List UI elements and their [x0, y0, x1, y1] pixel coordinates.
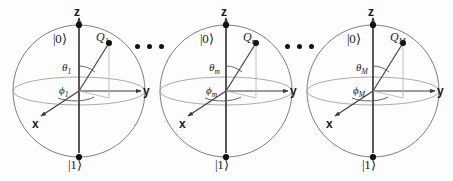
ellipsis-dot	[135, 44, 140, 49]
state-symbol-1: Q	[96, 30, 105, 44]
phi-subscript-m: m	[212, 90, 217, 99]
bloch-sphere-m-graphics	[160, 18, 292, 160]
ket-one-label-1: |1⟩	[68, 158, 81, 171]
x-axis-label-m: x	[179, 118, 186, 130]
bloch-sphere-1-graphics	[13, 18, 145, 160]
y-axis-label-1: y	[143, 85, 150, 97]
ket-one-label-m: |1⟩	[215, 158, 228, 171]
state-subscript-1: 1	[105, 37, 109, 46]
ellipsis-dot	[309, 44, 314, 49]
state-symbol-m: Q	[243, 30, 252, 44]
state-vector-1	[79, 43, 109, 91]
theta-label-1: θ1	[62, 62, 71, 76]
z-axis-label-1: z	[74, 6, 80, 18]
bloch-sphere-M-graphics	[307, 18, 439, 160]
state-label-M: QM	[390, 31, 405, 46]
state-label-m: Qm	[243, 31, 257, 46]
ellipsis-dot	[297, 44, 302, 49]
phi-subscript-M: M	[359, 90, 365, 99]
phi-label-m: ϕm	[206, 85, 217, 99]
ellipsis-between-1-and-m	[135, 44, 164, 49]
x-axis-label-1: x	[32, 118, 39, 130]
bloch-sphere-figure: z |0⟩ |1⟩ y x Q1 θ1 ϕ1 z |0⟩ |1⟩ y x Qm …	[0, 0, 453, 181]
north-pole-dot-M	[370, 22, 376, 28]
theta-subscript-m: m	[214, 67, 219, 76]
state-label-1: Q1	[96, 31, 109, 46]
state-subscript-m: m	[252, 37, 258, 46]
z-axis-label-M: z	[368, 6, 374, 18]
state-vector-m	[226, 43, 256, 91]
projection-plane-line-1	[79, 91, 109, 98]
projection-plane-line-M	[373, 91, 403, 98]
theta-label-m: θm	[209, 62, 220, 76]
x-axis-label-M: x	[326, 118, 333, 130]
ket-zero-label-M: |0⟩	[347, 32, 360, 45]
ellipsis-dot	[159, 44, 164, 49]
state-subscript-M: M	[399, 37, 406, 46]
phi-subscript-1: 1	[65, 90, 69, 99]
phi-label-1: ϕ1	[59, 85, 68, 99]
ellipsis-between-m-and-M	[285, 44, 314, 49]
theta-label-M: θM	[356, 62, 368, 76]
north-pole-dot-1	[76, 22, 82, 28]
z-axis-label-m: z	[221, 6, 227, 18]
y-axis-label-M: y	[437, 85, 444, 97]
state-symbol-M: Q	[390, 30, 399, 44]
state-vector-M	[373, 43, 403, 91]
projection-plane-line-m	[226, 91, 256, 98]
theta-subscript-M: M	[361, 67, 367, 76]
y-axis-label-m: y	[290, 85, 297, 97]
north-pole-dot-m	[223, 22, 229, 28]
ket-one-label-M: |1⟩	[362, 158, 375, 171]
phi-label-M: ϕM	[353, 85, 365, 99]
theta-subscript-1: 1	[67, 67, 71, 76]
ellipsis-dot	[285, 44, 290, 49]
ket-zero-label-1: |0⟩	[53, 32, 66, 45]
ket-zero-label-m: |0⟩	[200, 32, 213, 45]
ellipsis-dot	[147, 44, 152, 49]
